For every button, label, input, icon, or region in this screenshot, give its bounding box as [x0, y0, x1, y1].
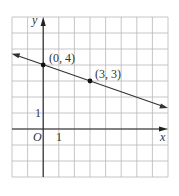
grid	[12, 17, 168, 177]
coordinate-plane: y x O 1 1 (0, 4) (3, 3)	[0, 0, 179, 196]
point-3-3	[88, 79, 93, 84]
x-tick-label: 1	[56, 130, 62, 144]
y-tick-label: 1	[35, 106, 41, 120]
point-label-0-4: (0, 4)	[49, 51, 75, 65]
point-label-3-3: (3, 3)	[95, 67, 121, 81]
x-axis-label: x	[159, 130, 166, 144]
origin-label: O	[33, 130, 42, 144]
line-left-arrow-icon	[12, 53, 21, 58]
line-right-arrow-icon	[159, 104, 168, 109]
y-axis-label: y	[31, 13, 38, 27]
point-0-4	[41, 63, 46, 68]
y-axis-arrow-icon	[41, 17, 46, 26]
